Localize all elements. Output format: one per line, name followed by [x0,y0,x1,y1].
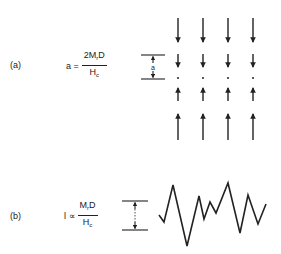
zero-moment-dot [177,77,179,79]
dimension-label-a: a [151,64,155,71]
dimension-marker-b [122,201,148,230]
zero-moment-dot [202,77,204,79]
zero-moment-dot [227,77,229,79]
zero-moment-dot [252,77,254,79]
diagram-graphics: a [0,0,281,254]
dipole-arrow-grid [177,18,254,140]
zigzag-domain-wall [159,183,266,246]
